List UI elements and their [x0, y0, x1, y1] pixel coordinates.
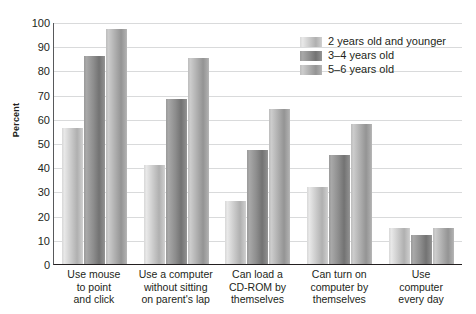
- y-axis-tick-label: 50: [20, 139, 50, 150]
- x-axis-category-label: Use a computerwithout sittingon parent's…: [137, 268, 215, 306]
- x-axis-category-labels: Use mouseto pointand clickUse a computer…: [53, 268, 462, 306]
- bar: [62, 128, 83, 264]
- legend-item: 2 years old and younger: [300, 36, 446, 47]
- legend-swatch: [300, 51, 322, 61]
- x-axis-category-label: Can load aCD-ROM bythemselves: [218, 268, 296, 306]
- y-axis-tick-label: 10: [20, 235, 50, 246]
- bar: [351, 124, 372, 264]
- bar: [166, 99, 187, 264]
- y-axis-tick-label: 100: [20, 18, 50, 29]
- x-axis-category-label: Use mouseto pointand click: [55, 268, 133, 306]
- y-axis-tick-label: 70: [20, 90, 50, 101]
- bar: [188, 58, 209, 264]
- y-axis-tick-label: 30: [20, 187, 50, 198]
- legend: 2 years old and younger3–4 years old5–6 …: [300, 36, 446, 75]
- legend-item: 3–4 years old: [300, 50, 446, 61]
- bar-group: [62, 23, 127, 264]
- bar: [411, 235, 432, 264]
- bar: [433, 228, 454, 264]
- bar: [389, 228, 410, 264]
- legend-label: 5–6 years old: [328, 64, 394, 75]
- bar: [269, 109, 290, 264]
- bar: [225, 201, 246, 264]
- bar: [144, 165, 165, 264]
- bar: [329, 155, 350, 264]
- bar-group: [225, 23, 290, 264]
- legend-label: 2 years old and younger: [328, 36, 446, 47]
- y-axis-tick-label: 0: [20, 260, 50, 271]
- y-axis-tick-label: 90: [20, 42, 50, 53]
- bar: [84, 56, 105, 264]
- y-axis-tick-label: 40: [20, 163, 50, 174]
- bar-group: [144, 23, 209, 264]
- x-axis-category-label: Usecomputerevery day: [382, 268, 460, 306]
- bar: [106, 29, 127, 264]
- y-axis-tick-label: 20: [20, 211, 50, 222]
- y-axis-tick-label: 60: [20, 114, 50, 125]
- legend-label: 3–4 years old: [328, 50, 394, 61]
- bar: [307, 187, 328, 264]
- y-axis-tick-labels: 1009080706050403020100: [20, 23, 50, 265]
- bar-chart: Percent 1009080706050403020100 2 years o…: [0, 0, 476, 314]
- legend-swatch: [300, 37, 322, 47]
- bar: [247, 150, 268, 264]
- legend-item: 5–6 years old: [300, 64, 446, 75]
- y-axis-tick-label: 80: [20, 66, 50, 77]
- x-axis-category-label: Can turn oncomputer bythemselves: [300, 268, 378, 306]
- legend-swatch: [300, 65, 322, 75]
